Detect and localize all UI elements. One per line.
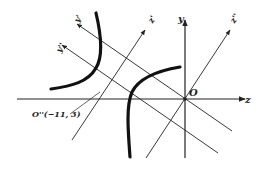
translated-origin-label: O''(−11, 3): [32, 109, 81, 119]
z-prime-axis: [72, 30, 145, 140]
z-double-prime-axis: [146, 30, 230, 158]
hyperbola-lower-right-branch: [128, 67, 180, 157]
z-double-prime-label: z'': [227, 12, 241, 26]
y-double-prime-label: y'': [53, 41, 67, 55]
origin-label: O: [189, 87, 198, 98]
y-axis-label: y: [177, 13, 185, 24]
y-prime-label: y': [71, 13, 84, 25]
z-axis-label: z: [244, 94, 251, 105]
z-prime-label: z': [145, 14, 158, 26]
hyperbola-rotated-axes-diagram: y z O z' z'' y' y'' O''(−11, 3): [0, 0, 265, 175]
origin-point: [183, 97, 187, 101]
